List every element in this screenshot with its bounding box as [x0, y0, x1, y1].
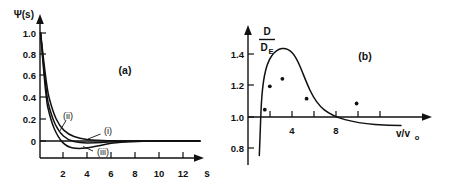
panel-b-ytick-label-2: 1.0: [231, 112, 244, 123]
panel-a-x-axis: [40, 154, 204, 162]
panel-a-xtick-label-3: 8: [132, 168, 137, 179]
panel-b-y-ticks: [248, 54, 254, 148]
panel-b-ytick-label-1: 1.2: [231, 80, 244, 91]
panel-b-theory-curve: [259, 48, 401, 155]
panel-a-curve-ii: [41, 33, 200, 143]
panel-a-curve-i: [41, 33, 200, 141]
panel-b-data-point: [281, 77, 285, 81]
panel-a-xtick-label-4: 10: [154, 168, 165, 179]
panel-a-y-axis-label: Ψ(s): [14, 9, 34, 20]
panel-b-y-axis-label: D D E: [259, 26, 275, 56]
panel-b: 1.4 1.2 1.0 0.8 4 8 D D E v/v o: [226, 0, 453, 191]
panel-a-xtick-label-5: 12: [178, 168, 189, 179]
panel-b-data-point: [305, 97, 309, 101]
panel-a-y-axis: [36, 14, 44, 158]
panel-a: 1.0 0.8 0.6 0.4 0.2 0 2 4 6 8 10 12 Ψ(s)…: [0, 0, 226, 191]
panel-b-x-axis-label: v/v o: [396, 128, 420, 142]
panel-b-y-axis-label-numerator: D: [263, 26, 270, 37]
panel-a-xtick-label-0: 2: [60, 168, 65, 179]
panel-a-x-axis-label: s: [204, 168, 210, 179]
panel-b-y-axis: [244, 25, 252, 165]
panel-b-plot: 1.4 1.2 1.0 0.8 4 8 D D E v/v o: [226, 0, 453, 191]
panel-b-ytick-label-3: 0.8: [231, 143, 244, 154]
panel-a-x-ticks: [63, 152, 183, 158]
panel-b-data-point: [355, 102, 359, 106]
panel-a-curve-tag-i: (i): [104, 126, 112, 136]
panel-b-x-axis-label-subscript: o: [415, 133, 420, 142]
panel-a-ytick-label-3: 0.4: [23, 92, 37, 103]
panel-a-ytick-label-5: 0: [31, 136, 36, 147]
panel-a-curve-tag-ii: (ii): [63, 111, 73, 121]
panel-b-data-point: [263, 108, 267, 112]
panel-b-x-axis-label-main: v/v: [396, 128, 410, 139]
panel-a-curve-tag-iii: (iii): [97, 147, 109, 157]
figure-root: 1.0 0.8 0.6 0.4 0.2 0 2 4 6 8 10 12 Ψ(s)…: [0, 0, 453, 191]
panel-b-tag: (b): [358, 50, 371, 62]
panel-b-ytick-label-0: 1.4: [231, 49, 245, 60]
panel-b-xtick-label-0: 4: [289, 125, 295, 136]
panel-b-xtick-label-1: 8: [333, 125, 338, 136]
panel-a-xtick-label-2: 6: [108, 168, 113, 179]
panel-b-x-axis: [248, 113, 432, 121]
panel-a-ytick-label-2: 0.6: [23, 70, 36, 81]
panel-b-y-axis-label-denominator: D: [260, 42, 267, 53]
panel-a-tag: (a): [119, 64, 132, 76]
panel-b-x-ticks: [270, 111, 380, 117]
panel-a-ytick-label-0: 1.0: [23, 28, 36, 39]
panel-a-xtick-label-1: 4: [84, 168, 90, 179]
panel-b-data-point: [268, 84, 272, 88]
panel-a-ytick-label-1: 0.8: [23, 49, 36, 60]
panel-a-ytick-label-4: 0.2: [23, 114, 36, 125]
panel-a-plot: 1.0 0.8 0.6 0.4 0.2 0 2 4 6 8 10 12 Ψ(s)…: [0, 0, 226, 191]
panel-a-leader-i: [88, 134, 101, 139]
